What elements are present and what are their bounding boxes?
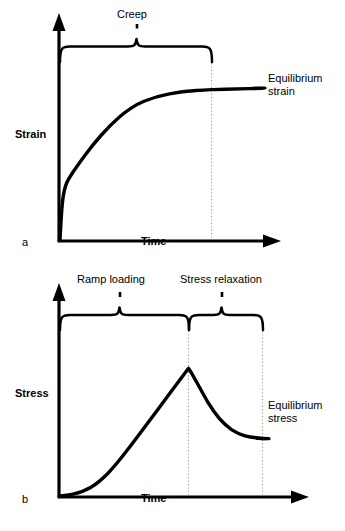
panel-a-y-axis-label: Strain: [15, 128, 46, 141]
panel-b-annotation-line2: stress: [268, 412, 297, 424]
panel-b-plot: [0, 265, 345, 531]
panel-a-annotation-line1: Equilibrium: [268, 72, 322, 84]
panel-a-annotation-line2: strain: [268, 85, 295, 97]
panel-b-bracket-label-stress-relaxation: Stress relaxation: [180, 273, 262, 286]
panel-a-bracket-label-creep: Creep: [117, 8, 147, 21]
panel-b-bracket-label-ramp-loading: Ramp loading: [77, 273, 145, 286]
panel-b-annotation-line1: Equilibrium: [268, 399, 322, 411]
panel-a-x-axis: [58, 235, 282, 248]
panel-a-plot: [0, 0, 345, 265]
panel-b-x-axis-label: Time: [141, 492, 166, 505]
panel-a-marker: a: [22, 236, 28, 249]
panel-b-brace-stress-relaxation: [189, 308, 263, 331]
panel-b-y-axis-label: Stress: [15, 387, 49, 400]
panel-b-stress-curve: [60, 368, 266, 496]
panel-b-brace-ramp-loading: [60, 308, 189, 331]
panel-a-creep-curve: [60, 88, 262, 240]
figure-container: Creep Equilibriumstrain Strain Time a Ra…: [0, 0, 345, 531]
panel-a-annotation-equilibrium-strain: Equilibriumstrain: [268, 72, 322, 97]
panel-b-x-axis: [58, 491, 310, 504]
panel-b-annotation-equilibrium-stress: Equilibriumstress: [268, 399, 322, 424]
panel-a-brace-creep: [60, 39, 212, 62]
panel-a-x-axis-label: Time: [141, 235, 166, 248]
panel-b-marker: b: [22, 493, 28, 506]
